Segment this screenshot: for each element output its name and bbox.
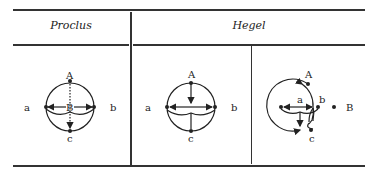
hegel2-label-inner-right: b [319,94,325,105]
proclus-label-right: b [110,102,116,113]
hegel1-label-top: A [187,69,196,80]
hegel-diagram-1 [167,83,215,131]
hegel2-label-bottom: c [309,133,315,144]
hegel2-label-inner-left: a [297,94,303,105]
hegel2-label-outer-right: B [346,102,353,113]
hegel-diagram-2 [267,79,318,131]
hegel1-label-bottom: c [188,133,194,144]
proclus-label-bottom: c [67,133,73,144]
hegel1-label-right: b [231,102,237,113]
hegel1-label-left: a [145,102,151,113]
proclus-label-left: a [24,102,30,113]
hegel2-label-top: A [304,69,313,80]
proclus-label-top: A [65,70,74,81]
proclus-label-center: B [66,102,73,113]
diagrams: A B a b c A a b c A a b B c [0,0,382,179]
